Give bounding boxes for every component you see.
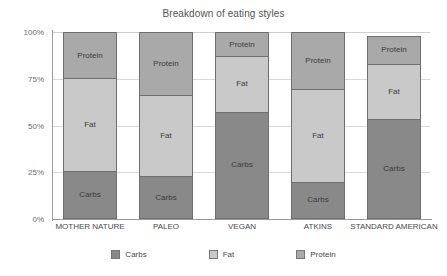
bar-group[interactable]: CarbsFatProtein: [215, 32, 269, 219]
stacked-bar[interactable]: CarbsFatProtein: [63, 32, 117, 219]
stacked-bar[interactable]: CarbsFatProtein: [367, 36, 421, 219]
bar-group[interactable]: CarbsFatProtein: [367, 36, 421, 219]
chart-title: Breakdown of eating styles: [0, 8, 447, 19]
legend-swatch-icon: [111, 250, 120, 259]
bar-segment-protein[interactable]: Protein: [368, 37, 420, 65]
bar-segment-label: Protein: [381, 46, 406, 54]
bar-series-group: CarbsFatProteinCarbsFatProteinCarbsFatPr…: [52, 32, 432, 219]
y-axis-tick-label: 25%: [28, 168, 44, 177]
bar-segment-carbs[interactable]: Carbs: [216, 113, 268, 218]
y-axis-tick-label: 100%: [24, 28, 44, 37]
bar-segment-label: Protein: [153, 60, 178, 68]
x-axis-tick-label: VEGAN: [228, 222, 256, 231]
bar-segment-fat[interactable]: Fat: [64, 79, 116, 172]
legend-swatch-icon: [296, 250, 305, 259]
bar-segment-label: Carbs: [79, 191, 100, 199]
bar-group[interactable]: CarbsFatProtein: [139, 32, 193, 219]
bar-segment-protein[interactable]: Protein: [216, 33, 268, 57]
legend-label: Protein: [310, 250, 335, 259]
x-axis-tick-label: MOTHER NATURE: [55, 222, 124, 231]
bar-segment-protein[interactable]: Protein: [64, 33, 116, 79]
x-axis-line: [52, 219, 432, 220]
bar-group[interactable]: CarbsFatProtein: [291, 32, 345, 219]
chart-legend: CarbsFatProtein: [0, 250, 447, 259]
bar-segment-carbs[interactable]: Carbs: [368, 120, 420, 218]
bar-segment-label: Protein: [305, 57, 330, 65]
y-axis-tick-label: 75%: [28, 74, 44, 83]
bar-segment-label: Carbs: [231, 161, 252, 169]
legend-item[interactable]: Fat: [209, 250, 235, 259]
x-axis-tick-label: ATKINS: [304, 222, 332, 231]
legend-swatch-icon: [209, 250, 218, 259]
x-axis-tick-labels: MOTHER NATUREPALEOVEGANATKINSSTANDARD AM…: [0, 222, 447, 236]
bar-segment-label: Carbs: [307, 196, 328, 204]
bar-segment-label: Fat: [236, 80, 248, 88]
bar-segment-protein[interactable]: Protein: [292, 33, 344, 90]
bar-segment-label: Carbs: [383, 165, 404, 173]
y-axis-tick-labels: 0%25%50%75%100%: [0, 32, 48, 219]
bar-segment-fat[interactable]: Fat: [216, 57, 268, 113]
stacked-bar[interactable]: CarbsFatProtein: [215, 32, 269, 219]
bar-segment-carbs[interactable]: Carbs: [64, 172, 116, 218]
bar-segment-fat[interactable]: Fat: [140, 96, 192, 177]
bar-segment-protein[interactable]: Protein: [140, 33, 192, 96]
stacked-bar[interactable]: CarbsFatProtein: [291, 32, 345, 219]
legend-item[interactable]: Protein: [296, 250, 335, 259]
legend-label: Carbs: [125, 250, 146, 259]
bar-segment-carbs[interactable]: Carbs: [292, 183, 344, 218]
x-axis-tick-label: PALEO: [153, 222, 179, 231]
legend-label: Fat: [223, 250, 235, 259]
bar-segment-label: Protein: [77, 52, 102, 60]
bar-segment-label: Fat: [388, 88, 400, 96]
legend-item[interactable]: Carbs: [111, 250, 146, 259]
bar-segment-label: Fat: [312, 132, 324, 140]
bar-segment-fat[interactable]: Fat: [292, 90, 344, 183]
bar-segment-label: Fat: [160, 132, 172, 140]
bar-group[interactable]: CarbsFatProtein: [63, 32, 117, 219]
bar-segment-label: Protein: [229, 41, 254, 49]
stacked-bar[interactable]: CarbsFatProtein: [139, 32, 193, 219]
x-axis-tick-label: STANDARD AMERICAN: [350, 222, 437, 231]
bar-segment-label: Carbs: [155, 194, 176, 202]
bar-segment-carbs[interactable]: Carbs: [140, 177, 192, 218]
chart-container: Breakdown of eating styles 0%25%50%75%10…: [0, 0, 447, 276]
y-axis-tick-label: 50%: [28, 121, 44, 130]
bar-segment-fat[interactable]: Fat: [368, 65, 420, 120]
bar-segment-label: Fat: [84, 121, 96, 129]
